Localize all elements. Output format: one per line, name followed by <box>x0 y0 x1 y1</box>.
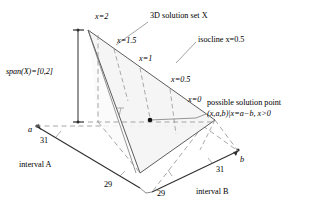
axis-b-symbol: b <box>240 156 244 165</box>
axis-b-interval-label: interval B <box>196 188 229 197</box>
solution-point-caption-line2: (x,a,b)|x=a−b, x>0 <box>207 110 271 119</box>
isocline-label-x1: x=1 <box>139 55 152 64</box>
solution-point-marker <box>148 118 153 123</box>
isocline-label-x0: x=0 <box>188 96 201 105</box>
isocline-label-x1p5: x=1.5 <box>117 37 136 46</box>
axis-b-tick-31: 31 <box>216 166 224 175</box>
isocline-label-x0p5: x=0.5 <box>171 76 190 85</box>
axis-a-tick-29: 29 <box>104 181 112 190</box>
isocline-callout: isocline x=0.5 <box>198 36 244 45</box>
figure-title: 3D solution set X <box>150 12 208 21</box>
base-plane-corner <box>140 188 152 193</box>
solution-point-caption-line1: possible solution point <box>207 99 281 108</box>
figure-canvas: x=2 3D solution set X x=1.5 isocline x=0… <box>0 0 317 209</box>
span-label: span(X)=[0,2] <box>6 68 53 77</box>
axis-a-symbol: a <box>28 126 32 135</box>
axis-a-interval-label: interval A <box>19 161 52 170</box>
span-bar <box>73 29 84 124</box>
axis-a-tick-31: 31 <box>40 137 48 146</box>
isocline-label-x2: x=2 <box>95 13 108 22</box>
axis-b-tick-29: 29 <box>157 190 165 199</box>
